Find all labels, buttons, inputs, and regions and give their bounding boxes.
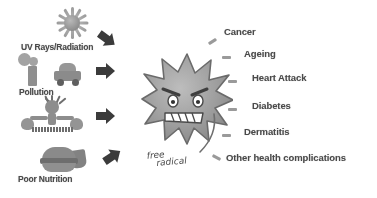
effect-label-dermatitis: Dermatitis (244, 126, 289, 137)
cause-label-uv: UV Rays/Radiation (21, 42, 93, 52)
sun-icon (52, 4, 92, 42)
stressed-person-icon: STRESS (18, 97, 88, 135)
cause-label-pollution: Pollution (19, 87, 54, 97)
connector-dash-cancer (208, 38, 217, 45)
diagram-canvas: UV Rays/Radiation Pollution STRESS (0, 0, 377, 198)
effect-label-diabetes: Diabetes (252, 100, 291, 111)
connector-dash-dermatitis (222, 134, 231, 137)
connector-dash-heart-attack (228, 80, 237, 83)
effect-label-cancer: Cancer (224, 26, 256, 37)
free-radical-label-line2: radical (156, 156, 187, 167)
pointer-stroke (196, 112, 220, 156)
factory-car-icon (14, 52, 92, 88)
connector-dash-ageing (222, 56, 231, 59)
connector-dash-diabetes (228, 108, 237, 111)
effect-label-ageing: Ageing (244, 48, 276, 59)
stress-caption: STRESS (32, 127, 74, 132)
effect-label-other: Other health complications (226, 152, 346, 163)
cause-label-nutrition: Poor Nutrition (18, 174, 72, 184)
free-radical-handwritten-label: free radical (146, 148, 187, 167)
fast-food-icon (26, 142, 92, 176)
effect-label-heart-attack: Heart Attack (252, 72, 306, 83)
